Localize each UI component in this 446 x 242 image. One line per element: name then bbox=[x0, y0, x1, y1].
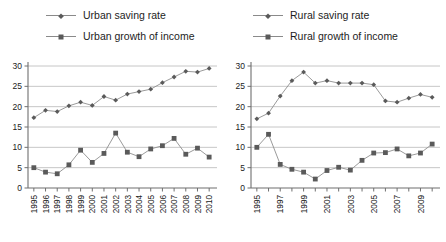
y-tick-label: 30 bbox=[236, 61, 246, 71]
x-tick-label: 2005 bbox=[147, 195, 156, 214]
data-point-marker bbox=[172, 136, 177, 141]
data-point-marker bbox=[148, 87, 153, 92]
data-point-marker bbox=[278, 162, 283, 167]
x-tick-label: 2008 bbox=[182, 195, 191, 214]
legend-line-icon bbox=[46, 15, 76, 16]
data-point-marker bbox=[113, 98, 118, 103]
urban-legend: Urban saving rate Urban growth of income bbox=[0, 0, 223, 47]
x-tick-label: 2005 bbox=[370, 195, 379, 214]
data-point-marker bbox=[301, 170, 306, 175]
y-tick-label: 0 bbox=[17, 183, 22, 193]
data-point-marker bbox=[418, 151, 423, 156]
y-tick-label: 10 bbox=[13, 142, 23, 152]
data-point-marker bbox=[336, 81, 341, 86]
legend-line-icon bbox=[253, 36, 283, 37]
rural-legend: Rural saving rate Rural growth of income bbox=[223, 0, 446, 47]
data-point-marker bbox=[160, 80, 165, 85]
series-line-rural-growth-of-income bbox=[257, 134, 432, 179]
legend-line-icon bbox=[46, 36, 76, 37]
legend-label: Urban growth of income bbox=[83, 31, 194, 42]
data-point-marker bbox=[207, 66, 212, 71]
x-tick-label: 2001 bbox=[100, 195, 109, 214]
legend-line-icon bbox=[253, 15, 283, 16]
legend-label: Rural saving rate bbox=[290, 10, 369, 21]
legend-item-rural-saving-rate: Rural saving rate bbox=[223, 5, 446, 26]
data-point-marker bbox=[137, 154, 142, 159]
data-point-marker bbox=[254, 145, 259, 150]
x-tick-label: 2006 bbox=[159, 195, 168, 214]
x-tick-label: 1997 bbox=[276, 195, 285, 214]
x-tick-label: 2004 bbox=[135, 195, 144, 214]
y-tick-label: 30 bbox=[13, 61, 23, 71]
urban-plot-svg: 0510152025301995199619971998199920002001… bbox=[0, 58, 223, 242]
data-point-marker bbox=[90, 160, 95, 165]
x-tick-label: 1995 bbox=[30, 195, 39, 214]
legend-item-urban-growth-of-income: Urban growth of income bbox=[0, 26, 223, 47]
data-point-marker bbox=[371, 151, 376, 156]
data-point-marker bbox=[325, 168, 330, 173]
data-point-marker bbox=[395, 147, 400, 152]
x-tick-label: 1997 bbox=[53, 195, 62, 214]
legend-item-rural-growth-of-income: Rural growth of income bbox=[223, 26, 446, 47]
y-tick-label: 25 bbox=[236, 81, 246, 91]
x-tick-label: 1999 bbox=[300, 195, 309, 214]
x-tick-label: 1995 bbox=[253, 195, 262, 214]
x-tick-label: 1999 bbox=[77, 195, 86, 214]
x-tick-label: 2002 bbox=[112, 195, 121, 214]
data-point-marker bbox=[78, 148, 83, 153]
series-line-rural-saving-rate bbox=[257, 72, 432, 119]
series-line-urban-saving-rate bbox=[34, 68, 209, 117]
data-point-marker bbox=[395, 100, 400, 105]
charts-container: Urban saving rate Urban growth of income… bbox=[0, 0, 446, 242]
x-tick-label: 1998 bbox=[65, 195, 74, 214]
data-point-marker bbox=[55, 171, 60, 176]
data-point-marker bbox=[43, 108, 48, 113]
y-tick-label: 20 bbox=[13, 102, 23, 112]
data-point-marker bbox=[430, 95, 435, 100]
data-point-marker bbox=[207, 155, 212, 160]
data-point-marker bbox=[55, 109, 60, 114]
data-point-marker bbox=[195, 146, 200, 151]
square-marker-icon bbox=[59, 34, 64, 39]
x-tick-label: 2007 bbox=[393, 195, 402, 214]
data-point-marker bbox=[125, 150, 130, 155]
data-point-marker bbox=[325, 78, 330, 83]
data-point-marker bbox=[78, 100, 83, 105]
y-tick-label: 10 bbox=[236, 142, 246, 152]
legend-item-urban-saving-rate: Urban saving rate bbox=[0, 5, 223, 26]
data-point-marker bbox=[183, 69, 188, 74]
data-point-marker bbox=[383, 150, 388, 155]
x-tick-label: 2001 bbox=[323, 195, 332, 214]
data-point-marker bbox=[266, 132, 271, 137]
x-tick-label: 2009 bbox=[194, 195, 203, 214]
data-point-marker bbox=[67, 103, 72, 108]
x-tick-label: 2010 bbox=[205, 195, 214, 214]
data-point-marker bbox=[148, 147, 153, 152]
x-tick-label: 1996 bbox=[42, 195, 51, 214]
data-point-marker bbox=[406, 96, 411, 101]
data-point-marker bbox=[360, 158, 365, 163]
data-point-marker bbox=[254, 116, 259, 121]
data-point-marker bbox=[360, 81, 365, 86]
data-point-marker bbox=[336, 165, 341, 170]
data-point-marker bbox=[31, 115, 36, 120]
data-point-marker bbox=[137, 89, 142, 94]
legend-label: Urban saving rate bbox=[83, 10, 166, 21]
data-point-marker bbox=[160, 143, 165, 148]
data-point-marker bbox=[102, 151, 107, 156]
data-point-marker bbox=[348, 81, 353, 86]
data-point-marker bbox=[313, 177, 318, 182]
data-point-marker bbox=[43, 170, 48, 175]
diamond-marker-icon bbox=[58, 13, 63, 18]
data-point-marker bbox=[348, 168, 353, 173]
data-point-marker bbox=[113, 131, 118, 136]
data-point-marker bbox=[430, 142, 435, 147]
data-point-marker bbox=[406, 153, 411, 158]
y-tick-label: 15 bbox=[236, 122, 246, 132]
x-tick-label: 2000 bbox=[88, 195, 97, 214]
y-tick-label: 5 bbox=[240, 163, 245, 173]
y-tick-label: 5 bbox=[17, 163, 22, 173]
rural-plot-svg: 0510152025301995199719992001200320052007… bbox=[223, 58, 446, 242]
x-tick-label: 2003 bbox=[347, 195, 356, 214]
x-tick-label: 2003 bbox=[124, 195, 133, 214]
